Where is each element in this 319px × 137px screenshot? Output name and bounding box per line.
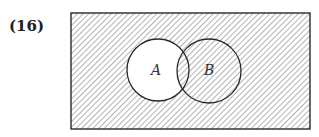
set-b-label: B	[203, 62, 214, 78]
set-a-label: A	[149, 62, 161, 78]
universal-set-rect	[71, 13, 310, 129]
venn-diagram: A B	[0, 0, 319, 137]
